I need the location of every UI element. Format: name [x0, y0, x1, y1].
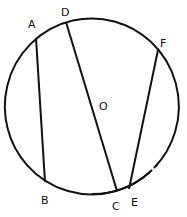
- label-E: E: [131, 196, 138, 209]
- circle-diagram: A D F B C E O: [0, 0, 187, 217]
- label-A: A: [28, 18, 36, 31]
- label-C: C: [112, 200, 120, 213]
- label-B: B: [41, 194, 49, 207]
- circle-arc-lower-right: [92, 172, 150, 194]
- label-D: D: [61, 6, 69, 19]
- circle-arc-fragment: [156, 165, 158, 167]
- chord-DC: [66, 22, 117, 191]
- chord-AB: [36, 38, 45, 182]
- label-O-center: O: [99, 100, 108, 113]
- chord-FE: [129, 50, 158, 189]
- label-F: F: [160, 37, 166, 50]
